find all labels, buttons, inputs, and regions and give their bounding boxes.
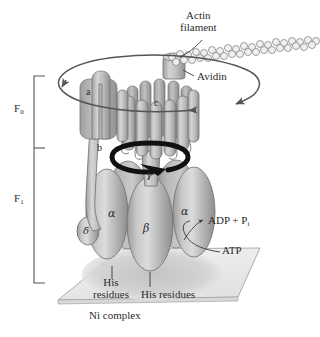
atp-label: ATP [222, 245, 242, 257]
ni-complex-label: Ni complex [89, 310, 141, 322]
beta-subunit-shape [127, 177, 173, 271]
adp-pi-label-base: ADP + P [208, 214, 247, 226]
subunit-label-c: c [154, 98, 158, 109]
f1-label: F1 [14, 193, 24, 206]
f0-f1-bracket [34, 76, 45, 283]
actin-filament-label: Actin filament [180, 10, 217, 33]
actin-filament-label-line1: Actin [180, 10, 217, 22]
subunit-label-alpha-right: α [181, 206, 188, 218]
his-residues-left-line1: His [79, 277, 143, 289]
subunit-label-beta: β [143, 223, 149, 235]
subunit-label-a: a [86, 87, 90, 98]
a-subunit-shape [80, 71, 117, 139]
his-residues-left-line2: residues [79, 289, 143, 301]
subunit-label-delta: δ [83, 226, 89, 237]
actin-filament-label-line2: filament [180, 22, 217, 34]
avidin-label: Avidin [197, 71, 227, 83]
subunit-label-alpha-left: α [108, 208, 115, 220]
actin-filament-shape [169, 37, 320, 66]
f0-label: F0 [14, 103, 24, 116]
subunit-label-gamma: γ [146, 169, 153, 181]
his-residues-left-label: His residues [79, 277, 143, 300]
atp-synthase-illustration [0, 0, 320, 337]
f0-label-subscript: 0 [20, 108, 24, 116]
his-residues-right-label: His residues [141, 289, 195, 301]
figure-canvas: Actin filament Avidin F0 F1 ADP + Pi ATP… [0, 0, 320, 337]
adp-pi-label: ADP + Pi [208, 215, 249, 228]
f1-label-subscript: 1 [20, 198, 24, 206]
subunit-label-b: b [97, 143, 102, 154]
adp-pi-label-subscript: i [247, 220, 249, 228]
